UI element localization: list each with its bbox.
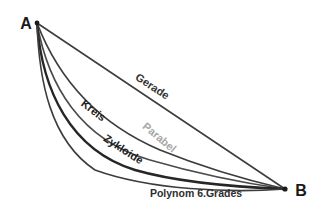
point-b-dot <box>282 186 287 191</box>
point-a-label: A <box>20 15 32 32</box>
label-gerade: Gerade <box>133 71 171 102</box>
label-zykloide: Zykloide <box>102 132 146 166</box>
label-polynom: Polynom 6.Grades <box>150 187 242 199</box>
brachistochrone-diagram: A B Gerade Kreis Parabel Zykloide Polyno… <box>0 0 317 212</box>
curves-canvas: A B Gerade Kreis Parabel Zykloide Polyno… <box>0 0 317 212</box>
point-b-label: B <box>295 182 307 199</box>
point-a-dot <box>35 21 40 26</box>
curve-gerade <box>37 23 285 189</box>
label-kreis: Kreis <box>79 97 108 123</box>
